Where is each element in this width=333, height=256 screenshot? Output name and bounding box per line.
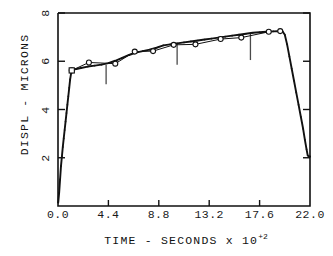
- y-tick-label: 6: [39, 48, 52, 74]
- data-point: [289, 56, 291, 58]
- data-point: [284, 34, 286, 36]
- y-tick-label: 8: [39, 0, 52, 26]
- data-point: [259, 31, 261, 33]
- square-marker: [69, 68, 74, 73]
- y-axis-title: DISPL - MICRONS: [18, 25, 31, 165]
- data-point: [101, 64, 103, 66]
- chart-figure: DISPL - MICRONS TIME - SECONDS x 10+2 0.…: [0, 0, 333, 256]
- x-axis-title-main: TIME - SECONDS x 10: [104, 234, 258, 247]
- data-point: [87, 66, 89, 68]
- data-point: [183, 42, 185, 44]
- data-point: [94, 65, 96, 67]
- data-point: [69, 78, 71, 80]
- data-point: [291, 68, 293, 70]
- data-point: [61, 156, 63, 158]
- x-tick-label: 8.8: [148, 208, 170, 221]
- data-point: [64, 129, 66, 131]
- x-axis-title: TIME - SECONDS x 10+2: [58, 232, 314, 247]
- data-point-circle: [132, 49, 137, 54]
- x-tick-label: 13.2: [194, 208, 224, 221]
- data-point-circle: [218, 37, 223, 42]
- data-point: [190, 41, 192, 43]
- data-point: [156, 47, 158, 49]
- series-line-measured-curve: [58, 31, 310, 202]
- data-point: [224, 36, 226, 38]
- data-point: [293, 80, 295, 82]
- x-tick-label: 0.0: [47, 208, 69, 221]
- data-point-circle: [193, 42, 198, 47]
- data-point: [163, 44, 165, 46]
- data-point: [80, 67, 82, 69]
- data-point: [62, 146, 64, 148]
- data-point-circle: [266, 29, 271, 34]
- data-point: [67, 95, 69, 97]
- data-point: [252, 32, 254, 34]
- data-point-circle: [239, 35, 244, 40]
- error-bars: [106, 34, 250, 85]
- data-point: [59, 179, 61, 181]
- data-point-circle: [113, 61, 118, 66]
- x-axis-ticks: [108, 200, 259, 206]
- data-point-circle: [151, 49, 156, 54]
- data-point: [211, 38, 213, 40]
- data-point: [204, 39, 206, 41]
- data-point: [286, 44, 288, 46]
- data-point: [306, 148, 308, 150]
- data-point: [57, 202, 59, 204]
- x-tick-label: 22.0: [295, 208, 325, 221]
- data-point: [302, 128, 304, 130]
- data-point: [63, 138, 65, 140]
- x-tick-label: 4.4: [97, 208, 119, 221]
- data-point: [300, 116, 302, 118]
- data-point-circle: [86, 60, 91, 65]
- data-point: [60, 165, 62, 167]
- x-tick-label: 17.6: [245, 208, 275, 221]
- data-point: [304, 139, 306, 141]
- data-point: [58, 192, 60, 194]
- data-point: [68, 87, 70, 89]
- y-tick-label: 2: [39, 145, 52, 171]
- y-axis-ticks: [58, 13, 310, 158]
- data-point: [66, 112, 68, 114]
- y-tick-label: 4: [39, 97, 52, 123]
- data-point-circle: [171, 42, 176, 47]
- data-point-circle: [278, 29, 283, 34]
- data-point: [67, 104, 69, 106]
- series-markers: [69, 68, 74, 73]
- data-point: [309, 156, 311, 158]
- data-series: [57, 29, 310, 204]
- data-point: [295, 92, 297, 94]
- data-point: [65, 121, 67, 123]
- data-point: [231, 35, 233, 37]
- data-point: [197, 40, 199, 42]
- data-point: [298, 104, 300, 106]
- data-point: [245, 33, 247, 35]
- x-axis-title-exponent: +2: [258, 232, 268, 241]
